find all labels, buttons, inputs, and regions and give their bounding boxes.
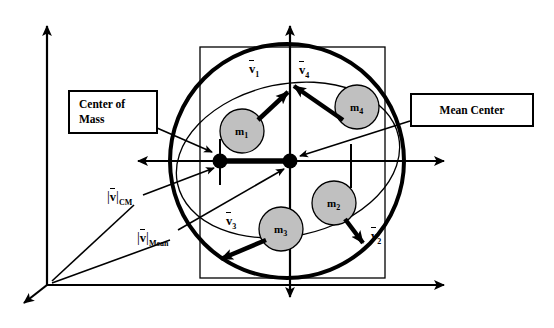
velocity-label-v3: v3 (226, 214, 236, 231)
mass-label-m3: m3 (274, 223, 287, 238)
figure-canvas: Center of Mass Mean Center m1 m4 m2 m3 v… (0, 0, 554, 328)
leader-center-of-mass (157, 128, 212, 152)
outer-coordinate-axes (24, 26, 444, 303)
callout-leader-lines (157, 121, 410, 156)
leader-v-cm-to-point (143, 168, 214, 195)
callout-center-of-mass-line1: Center of (79, 97, 125, 112)
velocity-vector-v1 (258, 92, 288, 120)
velocity-vector-v2 (345, 219, 363, 243)
leader-v-cm-to-origin (52, 205, 134, 281)
velocity-label-v4: v4 (299, 63, 309, 80)
outer-z-axis (24, 285, 47, 303)
diagram-svg (0, 0, 554, 328)
velocity-label-v2: v2 (371, 229, 381, 246)
mass-label-m1: m1 (235, 125, 248, 140)
center-of-mass-point[interactable] (213, 154, 228, 169)
velocity-vector-v3 (221, 240, 266, 259)
velocity-label-v1: v1 (249, 62, 259, 79)
callout-center-of-mass[interactable]: Center of Mass (68, 90, 158, 134)
mass-label-m2: m2 (327, 197, 340, 212)
callout-mean-center[interactable]: Mean Center (410, 93, 534, 127)
mean-center-point[interactable] (283, 154, 298, 169)
callout-center-of-mass-line2: Mass (79, 112, 125, 127)
callout-mean-center-label: Mean Center (440, 103, 505, 118)
mass-label-m4: m4 (350, 101, 363, 116)
magnitude-label-v-cm: |v|CM (107, 190, 132, 207)
magnitude-label-v-mean: |v|Mean (137, 231, 168, 248)
magnitude-leader-lines (52, 168, 284, 283)
